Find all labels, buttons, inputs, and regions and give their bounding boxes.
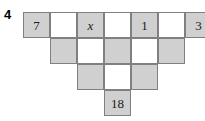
pyramid-cell-r0-c2: x <box>77 12 104 38</box>
pyramid-cell-r2-c1[interactable] <box>104 64 131 90</box>
pyramid-cell-value: 18 <box>111 97 124 110</box>
pyramid-cell-value: 1 <box>141 19 148 32</box>
pyramid-cell-value: 7 <box>33 19 40 32</box>
pyramid-cell-r1-c0[interactable] <box>50 38 77 64</box>
pyramid-cell-r0-c3[interactable] <box>104 12 131 38</box>
question-number-label: 4 <box>4 8 11 21</box>
pyramid-cell-r0-c1[interactable] <box>50 12 77 38</box>
pyramid-cell-value: 3 <box>195 19 202 32</box>
pyramid-cell-r1-c3[interactable] <box>131 38 158 64</box>
pyramid-cell-value: x <box>88 19 94 32</box>
pyramid-cell-r3-c0: 18 <box>104 90 131 116</box>
pyramid-cell-r1-c2[interactable] <box>104 38 131 64</box>
pyramid-cell-r0-c5[interactable] <box>158 12 185 38</box>
pyramid-cell-r0-c4: 1 <box>131 12 158 38</box>
pyramid-cell-r1-c1[interactable] <box>77 38 104 64</box>
pyramid-cell-r2-c0[interactable] <box>77 64 104 90</box>
pyramid-cell-r0-c0: 7 <box>23 12 50 38</box>
pyramid-cell-r1-c4[interactable] <box>158 38 185 64</box>
puzzle-canvas: 4 7x1318 <box>0 0 205 121</box>
pyramid-cell-r2-c2[interactable] <box>131 64 158 90</box>
pyramid-cell-r0-c6: 3 <box>185 12 205 38</box>
